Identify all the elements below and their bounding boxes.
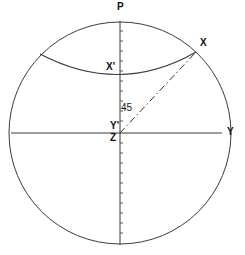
- label-pole-p: P: [117, 2, 124, 12]
- line-of-sight-dashed: [120, 52, 196, 133]
- label-star-x: X: [200, 38, 207, 48]
- declination-arc: [40, 52, 196, 75]
- label-angle-45: 45: [121, 103, 132, 113]
- label-star-projected-x-prime: X': [106, 62, 115, 72]
- diagram-canvas: [0, 0, 245, 255]
- label-zenith-z: Z: [110, 133, 116, 143]
- label-horizon-right-y: Y: [227, 127, 234, 137]
- stereographic-projection-figure: P X X' 45 Y' Z Y: [0, 0, 245, 255]
- label-horizon-center-y-prime: Y': [110, 121, 119, 131]
